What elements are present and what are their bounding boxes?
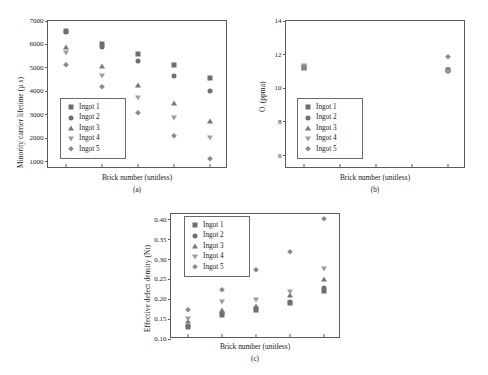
legend-marker-diamond-icon [302,144,313,155]
data-point-a [63,51,69,56]
marker-square-icon [192,223,197,228]
data-point-c [253,267,259,273]
y-axis-tick-a: 4000 [30,88,49,95]
data-point-a [172,63,177,68]
legend-label: Ingot 1 [313,104,337,111]
y-axis-tick-b: 8 [278,118,286,125]
data-point-a [172,74,177,79]
legend-item-ingot-2[interactable]: Ingot 2 [302,113,356,124]
panel-tag-c: (c) [170,355,340,363]
legend-label: Ingot 4 [200,253,224,260]
legend-item-ingot-5[interactable]: Ingot 5 [189,262,243,273]
legend-item-ingot-4[interactable]: Ingot 4 [65,134,119,145]
legend-marker-square-icon [65,102,76,113]
x-axis-tick-a [174,164,175,167]
data-point-a [207,156,213,162]
x-axis-tick-b [340,164,341,167]
legend-label: Ingot 2 [76,114,100,121]
data-point-c [253,304,259,309]
legend-marker-triangle-down-icon [189,252,200,263]
legend-marker-triangle-up-icon [302,123,313,134]
legend-marker-circle-icon [65,113,76,124]
y-axis-label-b: Oᵢ (ppma) [258,81,267,112]
data-point-c [219,308,225,313]
marker-triangle-down-icon [68,136,74,141]
marker-square-icon [305,105,310,110]
x-axis-tick-b [304,164,305,167]
legend-item-ingot-3[interactable]: Ingot 3 [189,241,243,252]
panel-tag-b: (b) [285,186,465,194]
y-axis-tick-c: 0.35 [154,236,171,243]
data-point-a [207,135,213,140]
x-axis-tick-c [188,334,189,337]
legend-marker-circle-icon [302,113,313,124]
legend-item-ingot-4[interactable]: Ingot 4 [189,252,243,263]
x-axis-label-a: Brick number (unitless) [47,173,227,182]
x-axis-tick-c [222,334,223,337]
legend-marker-triangle-up-icon [65,123,76,134]
x-axis-tick-c [256,334,257,337]
y-axis-tick-c: 0.40 [154,216,171,223]
marker-triangle-up-icon [192,244,198,249]
legend-item-ingot-4[interactable]: Ingot 4 [302,134,356,145]
legend-label: Ingot 4 [76,135,100,142]
legend-item-ingot-1[interactable]: Ingot 1 [65,102,119,113]
x-axis-label-c: Brick number (unitless) [170,342,340,351]
legend-item-ingot-5[interactable]: Ingot 5 [65,144,119,155]
legend-c: Ingot 1Ingot 2Ingot 3Ingot 4Ingot 5 [184,216,250,277]
legend-label: Ingot 5 [313,146,337,153]
marker-diamond-icon [67,146,73,152]
legend-marker-diamond-icon [189,262,200,273]
y-axis-tick-a: 1000 [30,158,49,165]
data-point-a [135,110,141,116]
marker-diamond-icon [191,264,197,270]
data-point-a [63,45,69,50]
y-axis-tick-a: 7000 [30,18,49,25]
data-point-c [287,289,293,294]
marker-triangle-up-icon [305,126,311,131]
data-point-a [64,30,69,35]
marker-circle-icon [192,233,197,238]
legend-item-ingot-3[interactable]: Ingot 3 [302,123,356,134]
legend-item-ingot-1[interactable]: Ingot 1 [189,220,243,231]
data-point-a [135,82,141,87]
x-axis-tick-c [324,334,325,337]
x-axis-tick-a [210,164,211,167]
data-point-c [322,286,327,291]
legend-marker-triangle-down-icon [65,134,76,145]
legend-b: Ingot 1Ingot 2Ingot 3Ingot 4Ingot 5 [297,98,363,159]
y-axis-tick-b: 6 [278,152,286,159]
data-point-c [287,249,293,255]
y-axis-label-a: Minority carrier lifetime (µ s) [16,77,25,168]
data-point-a [208,76,213,81]
marker-diamond-icon [304,146,310,152]
marker-triangle-down-icon [305,136,311,141]
legend-label: Ingot 3 [76,125,100,132]
legend-item-ingot-2[interactable]: Ingot 2 [65,113,119,124]
data-point-c [219,300,225,305]
y-axis-tick-c: 0.15 [154,316,171,323]
legend-item-ingot-1[interactable]: Ingot 1 [302,102,356,113]
marker-circle-icon [68,115,73,120]
y-axis-tick-a: 6000 [30,41,49,48]
legend-item-ingot-5[interactable]: Ingot 5 [302,144,356,155]
x-axis-tick-b [448,164,449,167]
legend-item-ingot-2[interactable]: Ingot 2 [189,231,243,242]
legend-label: Ingot 2 [313,114,337,121]
legend-label: Ingot 3 [200,243,224,250]
legend-label: Ingot 3 [313,125,337,132]
data-point-c [288,300,293,305]
legend-marker-square-icon [189,220,200,231]
data-point-a [171,100,177,105]
marker-triangle-up-icon [68,126,74,131]
y-axis-tick-c: 0.25 [154,276,171,283]
legend-marker-circle-icon [189,231,200,242]
data-point-c [185,307,191,313]
y-axis-tick-b: 12 [275,51,287,58]
legend-item-ingot-3[interactable]: Ingot 3 [65,123,119,134]
y-axis-label-c: Effective defect density (Nt) [143,245,152,332]
y-axis-tick-b: 14 [275,18,287,25]
x-axis-label-b: Brick number (unitless) [285,173,465,182]
y-axis-tick-c: 0.10 [154,336,171,343]
data-point-c [321,267,327,272]
